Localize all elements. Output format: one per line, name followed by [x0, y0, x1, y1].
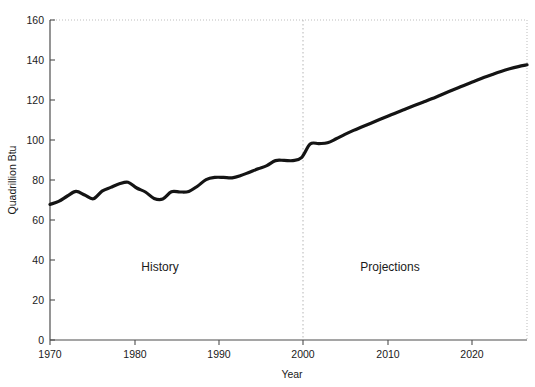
- x-tick-label: 1980: [123, 348, 147, 360]
- y-tick-label: 120: [26, 94, 44, 106]
- x-tick-label: 2000: [291, 348, 315, 360]
- y-tick-label: 140: [26, 54, 44, 66]
- annotation-history: History: [141, 260, 178, 274]
- y-axis-tick-labels: 160 140 120 100 80 60 40 20 0: [26, 14, 44, 346]
- x-tick-label: 1970: [38, 348, 62, 360]
- x-axis-tick-labels: 1970 1980 1990 2000 2010 2020: [38, 348, 484, 360]
- plot-area-background: [50, 20, 527, 340]
- y-tick-label: 40: [32, 254, 44, 266]
- y-tick-label: 0: [38, 334, 44, 346]
- y-axis-title: Quadrillion Btu: [6, 145, 18, 214]
- x-tick-label: 1990: [207, 348, 231, 360]
- x-tick-label: 2010: [376, 348, 400, 360]
- y-tick-label: 100: [26, 134, 44, 146]
- y-tick-label: 20: [32, 294, 44, 306]
- x-tick-label: 2020: [460, 348, 484, 360]
- chart-figure: 160 140 120 100 80 60 40 20 0 1970 1980 …: [0, 0, 535, 387]
- y-tick-label: 80: [32, 174, 44, 186]
- x-axis-ticks: [50, 340, 472, 345]
- energy-consumption-line-chart: 160 140 120 100 80 60 40 20 0 1970 1980 …: [0, 0, 535, 387]
- y-tick-label: 160: [26, 14, 44, 26]
- x-axis-title: Year: [281, 368, 303, 380]
- y-tick-label: 60: [32, 214, 44, 226]
- annotation-projections: Projections: [360, 260, 419, 274]
